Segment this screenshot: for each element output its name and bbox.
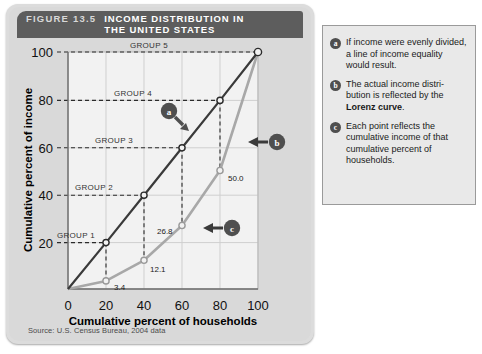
group-label-1: GROUP 1 <box>57 231 95 240</box>
legend-text-b-lead: The actual income distri-bution is refle… <box>346 79 444 101</box>
y-tick-80: 80 <box>39 93 53 108</box>
figure-title-banner: FIGURE 13.5 INCOME DISTRIBUTION IN THE U… <box>17 11 303 38</box>
group-label-3: GROUP 3 <box>95 136 133 145</box>
group-label-2: GROUP 2 <box>75 183 113 192</box>
legend-item-c: c Each point reflects the cumulative inc… <box>330 121 467 167</box>
figure-kicker: FIGURE 13.5 <box>26 13 96 24</box>
callout-marker-c-letter: c <box>230 224 234 234</box>
legend-text-a: If income were evenly divided, a line of… <box>346 37 467 72</box>
y-tick-100: 100 <box>31 45 53 60</box>
legend-bullet-b-icon: b <box>330 80 341 91</box>
legend-text-c: Each point reflects the cumulative incom… <box>346 121 467 167</box>
legend-text-b: The actual income distri-bution is refle… <box>346 79 467 114</box>
chart-plot-area: GROUP 5 GROUP 4 GROUP 3 GROUP 2 GROUP 1 … <box>17 38 303 327</box>
y-tick-40: 40 <box>39 188 53 203</box>
figure-panel: FIGURE 13.5 INCOME DISTRIBUTION IN THE U… <box>6 4 314 344</box>
y-tick-60: 60 <box>39 141 53 156</box>
value-label-50-0: 50.0 <box>228 174 244 183</box>
page-title: INCOME DISTRIBUTION IN THE UNITED STATES <box>104 13 244 35</box>
legend-panel: a If income were evenly divided, a line … <box>322 25 476 205</box>
lorenz-curve-chart: GROUP 5 GROUP 4 GROUP 3 GROUP 2 GROUP 1 … <box>17 38 303 327</box>
callout-marker-a-letter: a <box>167 107 172 117</box>
value-label-26-8: 26.8 <box>157 227 173 236</box>
x-tick-0: 0 <box>64 298 71 313</box>
legend-text-b-tail: . <box>402 102 405 112</box>
legend-bullet-c-icon: c <box>330 122 341 133</box>
source-note: Source: U.S. Census Bureau, 2004 data <box>28 326 166 335</box>
value-label-3-4: 3.4 <box>114 283 126 292</box>
x-tick-40: 40 <box>137 298 151 313</box>
x-tick-100: 100 <box>247 298 269 313</box>
lorenz-curve-term: Lorenz curve <box>346 102 402 112</box>
y-tick-20: 20 <box>39 236 53 251</box>
group-label-4: GROUP 4 <box>114 89 152 98</box>
value-label-12-1: 12.1 <box>150 265 166 274</box>
legend-bullet-a-icon: a <box>330 38 341 49</box>
x-tick-80: 80 <box>213 298 227 313</box>
x-tick-60: 60 <box>175 298 189 313</box>
group-label-5: GROUP 5 <box>130 41 168 50</box>
callout-marker-b-letter: b <box>274 138 279 148</box>
y-axis-title: Cumulative percent of income <box>22 88 34 252</box>
legend-item-a: a If income were evenly divided, a line … <box>330 37 467 72</box>
legend-item-b: b The actual income distri-bution is ref… <box>330 79 467 114</box>
x-tick-20: 20 <box>99 298 113 313</box>
